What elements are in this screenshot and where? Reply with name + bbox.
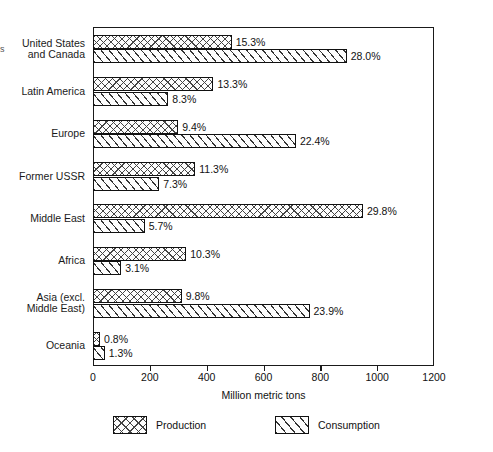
x-tick-label: 600 bbox=[255, 371, 273, 383]
category-label: Europe bbox=[0, 128, 85, 140]
legend-swatch-production-icon bbox=[113, 416, 147, 434]
x-tick-label: 200 bbox=[141, 371, 159, 383]
bar-consumption bbox=[93, 92, 168, 106]
category-label: Asia (excl. Middle East) bbox=[0, 292, 85, 315]
bar-production bbox=[93, 247, 186, 261]
bar-consumption bbox=[93, 134, 296, 148]
category-label: United States and Canada bbox=[0, 38, 85, 61]
category-label: Former USSR bbox=[0, 171, 85, 183]
category-label: Latin America bbox=[0, 86, 85, 98]
bar-value-label: 9.4% bbox=[182, 120, 206, 134]
bar-chart: s United States and CanadaLatin AmericaE… bbox=[0, 0, 493, 452]
bar-value-label: 9.8% bbox=[186, 289, 210, 303]
bar-production bbox=[93, 332, 100, 346]
bar-value-label: 7.3% bbox=[163, 177, 187, 191]
category-label: Africa bbox=[0, 255, 85, 267]
bar-production bbox=[93, 162, 195, 176]
bar-consumption bbox=[93, 49, 347, 63]
bar-consumption bbox=[93, 261, 121, 275]
bar-production bbox=[93, 289, 182, 303]
bars-layer: 15.3%28.0%13.3%8.3%9.4%22.4%11.3%7.3%29.… bbox=[93, 27, 434, 366]
bar-value-label: 22.4% bbox=[300, 134, 330, 148]
bar-value-label: 11.3% bbox=[199, 162, 228, 176]
bar-value-label: 3.1% bbox=[125, 261, 149, 275]
category-label: Oceania bbox=[0, 340, 85, 352]
chart-legend: ProductionConsumption bbox=[93, 415, 434, 445]
bar-value-label: 1.3% bbox=[109, 346, 133, 360]
legend-item-consumption: Consumption bbox=[275, 415, 380, 435]
category-axis-labels: United States and CanadaLatin AmericaEur… bbox=[0, 27, 89, 366]
bar-value-label: 8.3% bbox=[172, 92, 196, 106]
bar-production bbox=[93, 77, 213, 91]
x-axis-title: Million metric tons bbox=[93, 389, 434, 401]
bar-value-label: 29.8% bbox=[367, 204, 397, 218]
bar-value-label: 0.8% bbox=[104, 332, 128, 346]
x-tick-label: 400 bbox=[198, 371, 216, 383]
bar-value-label: 5.7% bbox=[149, 219, 173, 233]
legend-label: Production bbox=[156, 419, 206, 431]
x-tick-label: 1000 bbox=[365, 371, 388, 383]
bar-consumption bbox=[93, 219, 145, 233]
bar-production bbox=[93, 35, 232, 49]
bar-consumption bbox=[93, 346, 105, 360]
legend-item-production: Production bbox=[113, 415, 206, 435]
bar-production bbox=[93, 120, 178, 134]
x-tick-label: 0 bbox=[90, 371, 96, 383]
bar-value-label: 10.3% bbox=[190, 247, 220, 261]
bar-value-label: 15.3% bbox=[236, 35, 266, 49]
bar-consumption bbox=[93, 177, 159, 191]
bar-consumption bbox=[93, 304, 310, 318]
category-label: Middle East bbox=[0, 213, 85, 225]
legend-swatch-consumption-icon bbox=[275, 416, 309, 434]
bar-value-label: 28.0% bbox=[351, 49, 381, 63]
legend-label: Consumption bbox=[318, 419, 380, 431]
bar-production bbox=[93, 204, 363, 218]
x-tick-label: 1200 bbox=[422, 371, 445, 383]
bar-value-label: 23.9% bbox=[314, 304, 344, 318]
x-tick-label: 800 bbox=[312, 371, 330, 383]
bar-value-label: 13.3% bbox=[217, 77, 247, 91]
